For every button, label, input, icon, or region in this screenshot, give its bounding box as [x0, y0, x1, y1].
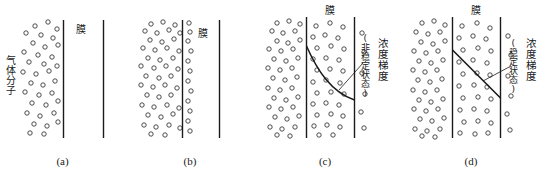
panel-d-concentration-gradient-line — [453, 50, 501, 98]
panel-b-left-gas-dots — [139, 20, 182, 137]
panel-d-state-label: (稳定状态) — [508, 38, 517, 94]
panel-c-gradient-label: 浓度梯度 — [377, 38, 388, 82]
panel-d-left-gas-dots — [411, 19, 447, 139]
panel-d-gradient-leader-line — [483, 66, 511, 81]
panel-c-in-membrane-dots — [311, 21, 346, 137]
panel-a-membrane-label: 膜 — [76, 21, 86, 36]
panel-a-left-gas-dots — [21, 20, 60, 136]
panel-a-graphic — [0, 0, 125, 150]
panel-a-gas-molecules-label: 气体分子 — [4, 55, 14, 95]
panel-c: 膜 (非稳定状态) 浓度梯度 (c) — [255, 0, 395, 175]
panel-b-graphic — [125, 0, 255, 150]
panel-c-caption: (c) — [255, 155, 395, 167]
panel-b: 膜 (b) — [125, 0, 255, 175]
panel-c-state-label: (非稳定状态) — [360, 33, 369, 98]
panel-b-in-membrane-dots — [186, 21, 193, 133]
panel-a: 气体分子 膜 (a) — [0, 0, 125, 175]
panel-b-membrane-label: 膜 — [198, 25, 208, 40]
panel-d-caption: (d) — [395, 155, 547, 167]
panel-d-gradient-label: 浓度梯度 — [525, 38, 536, 82]
panel-d-membrane-label: 膜 — [471, 2, 481, 17]
panel-c-concentration-gradient-curve — [307, 46, 355, 100]
panel-c-membrane-label: 膜 — [325, 2, 335, 17]
panel-c-graphic — [255, 0, 395, 150]
panel-b-caption: (b) — [125, 155, 255, 167]
panel-d: 膜 (稳定状态) 浓度梯度 (d) — [395, 0, 547, 175]
diffusion-membrane-figure: 气体分子 膜 (a) — [0, 0, 547, 175]
panel-c-left-gas-dots — [266, 19, 302, 138]
panel-a-caption: (a) — [0, 155, 125, 167]
